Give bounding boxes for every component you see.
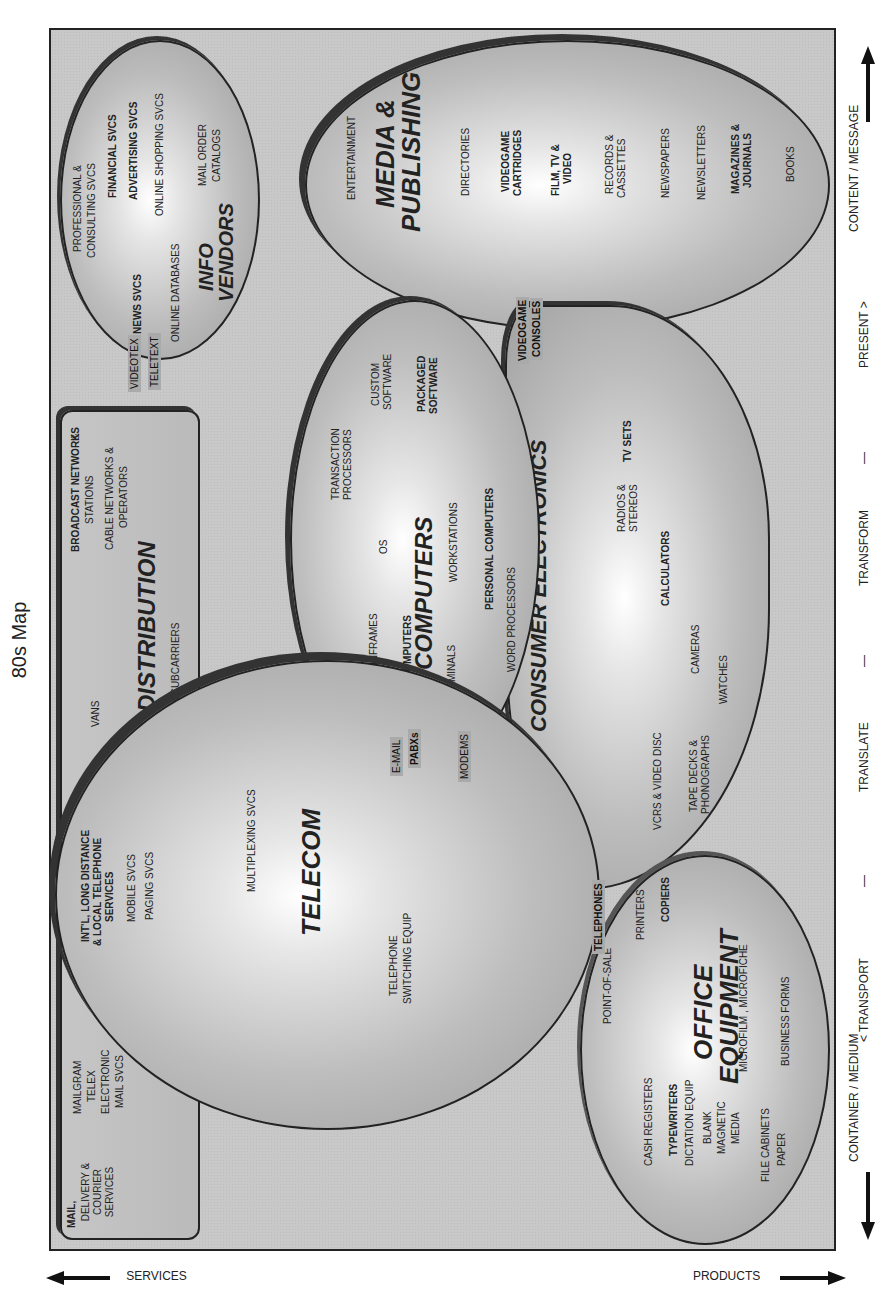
oe-blank: BLANK <box>702 1111 714 1144</box>
oe-printers: PRINTERS <box>635 889 647 940</box>
mp-cassettes: CASSETTES <box>616 139 628 198</box>
connector-pabxs: PABXs <box>408 729 421 768</box>
comp-word-processors: WORD PROCESSORS <box>506 567 518 672</box>
computers-title: COMPUTERS <box>412 517 436 670</box>
tel-intl: INT'L, LONG DISTANCE <box>80 830 92 942</box>
mp-books: BOOKS <box>785 146 797 182</box>
comp-personal: PERSONAL COMPUTERS <box>484 488 496 610</box>
oe-paper: PAPER <box>776 1133 788 1166</box>
mail-subtitle: DELIVERY & COURIER SERVICES <box>80 1152 116 1232</box>
tel-services: SERVICES <box>104 872 116 922</box>
tel-mobile: MOBILE SVCS <box>126 854 138 922</box>
connector-email: E-MAIL <box>390 737 403 776</box>
arrow-left-head-icon <box>861 1222 875 1240</box>
comp-custom-software: SOFTWARE <box>382 354 394 410</box>
oe-typewriters: TYPEWRITERS <box>668 1084 680 1156</box>
comp-packaged-software: SOFTWARE <box>428 357 440 414</box>
iv-news: NEWS SVCS <box>132 274 144 334</box>
mail-item-telex: TELEX <box>86 1070 98 1102</box>
dist-vans: VANs <box>90 701 102 728</box>
oe-cash-registers: CASH REGISTERS <box>643 1078 655 1166</box>
oe-media: MEDIA <box>730 1112 742 1144</box>
arrow-services-head-icon <box>46 1271 64 1285</box>
mail-title: MAIL, <box>66 1201 78 1228</box>
office-title-1: OFFICE <box>690 965 716 1060</box>
tel-local: & LOCAL TELEPHONE <box>92 838 104 946</box>
ce-tape-decks: TAPE DECKS & <box>688 740 700 812</box>
axis-transform: TRANSFORM <box>858 510 871 586</box>
comp-processors: PROCESSORS <box>342 429 354 500</box>
iv-professional: PROFESSIONAL & <box>72 165 84 252</box>
dist-cable: CABLE NETWORKS & <box>104 447 116 550</box>
mail-item-mail-svcs: MAIL Svcs <box>114 1055 126 1108</box>
axis-dash-3: — <box>858 452 871 464</box>
axis-dash-2: — <box>858 655 871 667</box>
iv-online-shopping: ONLINE SHOPPING SVCS <box>154 93 166 216</box>
oe-dictation: DICTATION EQUIP <box>684 1080 696 1166</box>
comp-os: OS <box>378 540 390 554</box>
arrow-right-head-icon <box>861 46 875 64</box>
arrow-products-line <box>780 1276 830 1280</box>
tel-telephone: TELEPHONE <box>388 935 400 996</box>
axis-present: PRESENT > <box>858 301 871 368</box>
oe-pos: POINT-OF-SALE <box>602 948 614 1024</box>
oe-copiers: COPIERS <box>660 877 672 922</box>
dist-operators: OPERATORS <box>118 466 130 528</box>
oe-magnetic: MAGNETIC <box>716 1101 728 1154</box>
ce-watches: WATCHES <box>718 655 730 704</box>
comp-packaged: PACKAGED <box>416 356 428 412</box>
arrow-right-line <box>866 62 870 122</box>
comp-transaction: TRANSACTION <box>330 428 342 500</box>
oe-file-cabinets: FILE CABINETS <box>760 1108 772 1182</box>
mp-entertainment: ENTERTAINMENT <box>346 116 358 200</box>
tel-switching: SWITCHING EQUIP <box>402 913 414 1004</box>
ce-calculators: CALCULATORS <box>660 531 672 606</box>
connector-teletext: TELETEXT <box>148 333 161 390</box>
arrow-left-line <box>866 1172 870 1222</box>
office-title-2: EQUIPMENT <box>716 929 742 1084</box>
connector-telephones: TELEPHONES <box>592 880 605 954</box>
dist-stations: STATIONS <box>84 475 96 524</box>
ce-phonographs: PHONOGRAPHS <box>700 735 712 814</box>
distribution-title: DISTRIBUTION <box>135 541 159 712</box>
dist-amp: & <box>70 433 82 440</box>
arrow-services-line <box>60 1276 110 1280</box>
iv-advertising: ADVERTISING SVCS <box>128 102 140 200</box>
mp-directories: DIRECTORIES <box>460 128 472 196</box>
axis-transport: < TRANSPORT <box>858 958 871 1042</box>
mail-item-electronic: ELECTRONIC <box>100 1050 112 1114</box>
arrow-products-head-icon <box>828 1271 846 1285</box>
tel-multiplexing: MULTIPLEXING SVCS <box>246 789 258 892</box>
comp-workstations: WORKSTATIONS <box>448 502 460 582</box>
ce-radios: RADIOS & <box>616 484 628 532</box>
ce-vcrs: VCRs & VIDEO DISC <box>652 732 664 830</box>
tel-paging: PAGING SVCS <box>144 852 156 920</box>
diagram-canvas: 80s Map MAIL, DELIVERY & COURIER SERVICE… <box>0 0 891 1292</box>
axis-translate: TRANSLATE <box>858 722 871 792</box>
iv-financial: FINANCIAL SVCS <box>107 114 119 198</box>
mp-film: FILM, TV & <box>550 144 562 196</box>
iv-online-databases: ONLINE DATABASES <box>170 243 182 342</box>
diagram-title: 80s Map <box>8 540 31 740</box>
mp-newspapers: NEWSPAPERS <box>660 128 672 198</box>
ce-stereos: STEREOS <box>628 484 640 532</box>
mail-title-text: MAIL, <box>66 1201 77 1228</box>
mp-journals: JOURNALS <box>742 133 754 188</box>
mp-records: RECORDS & <box>604 135 616 194</box>
axis-container-medium: CONTAINER / MEDIUM <box>848 1082 861 1162</box>
connector-consoles: CONSOLES <box>530 298 543 360</box>
iv-consulting: CONSULTING SVCS <box>86 163 98 258</box>
info-vendors-title: INFO VENDORS <box>196 232 236 302</box>
mp-videogame: VIDEOGAME <box>500 131 512 192</box>
mail-item-mailgram: MAILGRAM <box>72 1061 84 1114</box>
axis-dash-1: — <box>858 875 871 887</box>
mp-cartridges: CARTRIDGES <box>512 130 524 196</box>
axis-content-message: CONTENT / MESSAGE <box>848 152 861 232</box>
iv-mail-order: MAIL ORDER <box>197 124 209 186</box>
media-title-2: PUBLISHING <box>398 72 424 232</box>
axis-products: PRODUCTS <box>682 1270 772 1283</box>
media-title-1: MEDIA & <box>372 99 398 208</box>
mp-video: VIDEO <box>562 153 574 184</box>
connector-videotex: VIDEOTEX <box>128 335 141 392</box>
ce-cameras: CAMERAS <box>690 625 702 674</box>
